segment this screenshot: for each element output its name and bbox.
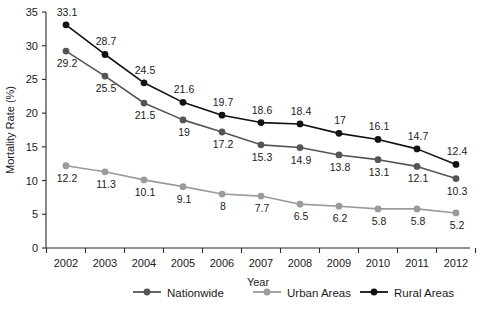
data-point bbox=[297, 121, 304, 128]
data-point bbox=[180, 116, 187, 123]
data-point bbox=[375, 156, 382, 163]
data-point bbox=[219, 112, 226, 119]
y-axis-ticks: 05101520253035 bbox=[26, 6, 46, 254]
y-tick-label: 10 bbox=[26, 175, 38, 187]
y-tick-label: 35 bbox=[26, 6, 38, 18]
y-tick-label: 20 bbox=[26, 107, 38, 119]
data-point-label: 14.9 bbox=[291, 154, 312, 166]
data-point bbox=[297, 144, 304, 151]
data-point-label: 17 bbox=[334, 114, 346, 126]
data-point-label: 5.8 bbox=[372, 215, 387, 227]
data-point bbox=[141, 176, 148, 183]
y-tick-label: 15 bbox=[26, 141, 38, 153]
legend-label: Urban Areas bbox=[287, 287, 351, 299]
data-point-label: 18.6 bbox=[252, 104, 273, 116]
y-axis-group: 05101520253035 Mortality Rate (%) bbox=[4, 6, 46, 254]
x-axis-title: Year bbox=[247, 276, 270, 288]
data-point-label: 10.1 bbox=[135, 186, 156, 198]
data-point-label: 19.7 bbox=[213, 96, 234, 108]
x-tick-label: 2009 bbox=[327, 257, 351, 269]
data-point bbox=[336, 130, 343, 137]
data-point bbox=[180, 99, 187, 106]
data-point-label: 6.2 bbox=[333, 212, 348, 224]
data-point-label: 21.5 bbox=[135, 109, 156, 121]
y-tick-label: 0 bbox=[32, 242, 38, 254]
data-point-label: 21.6 bbox=[174, 83, 195, 95]
data-point bbox=[219, 191, 226, 198]
x-tick-label: 2012 bbox=[444, 257, 468, 269]
data-point bbox=[453, 210, 460, 217]
data-point-label: 10.3 bbox=[447, 185, 468, 197]
x-axis-group: 2002200320042005200620072008200920102011… bbox=[46, 248, 476, 288]
data-point bbox=[414, 205, 421, 212]
data-point-label: 12.4 bbox=[447, 145, 468, 157]
data-point bbox=[336, 203, 343, 210]
data-point-label: 15.3 bbox=[252, 151, 273, 163]
y-tick-label: 25 bbox=[26, 73, 38, 85]
x-tick-label: 2006 bbox=[210, 257, 234, 269]
data-point-label: 7.7 bbox=[255, 202, 270, 214]
data-point-label: 14.7 bbox=[408, 130, 429, 142]
data-point bbox=[375, 136, 382, 143]
data-point-label: 33.1 bbox=[57, 6, 78, 18]
legend-label: Rural Areas bbox=[394, 287, 454, 299]
data-point-label: 9.1 bbox=[177, 193, 192, 205]
data-point-label: 5.2 bbox=[450, 219, 465, 231]
data-point-label: 28.7 bbox=[96, 35, 117, 47]
data-point-label: 16.1 bbox=[369, 120, 390, 132]
data-point-label: 13.8 bbox=[330, 161, 351, 173]
data-point-label: 25.5 bbox=[96, 82, 117, 94]
x-tick-label: 2007 bbox=[249, 257, 273, 269]
data-point bbox=[141, 79, 148, 86]
data-point bbox=[414, 163, 421, 170]
data-point-label: 5.8 bbox=[411, 215, 426, 227]
chart-legend: NationwideUrban AreasRural Areas bbox=[133, 287, 454, 299]
x-tick-label: 2008 bbox=[288, 257, 312, 269]
legend-marker bbox=[371, 289, 378, 296]
data-point-label: 8 bbox=[220, 200, 226, 212]
data-point-label: 12.1 bbox=[408, 172, 429, 184]
data-point-label: 24.5 bbox=[135, 64, 156, 76]
data-point-label: 13.1 bbox=[369, 166, 390, 178]
data-point bbox=[375, 205, 382, 212]
x-tick-label: 2003 bbox=[93, 257, 117, 269]
chart-container: 05101520253035 Mortality Rate (%) 200220… bbox=[0, 0, 487, 310]
data-point bbox=[102, 168, 109, 175]
mortality-rate-line-chart: 05101520253035 Mortality Rate (%) 200220… bbox=[0, 0, 487, 310]
y-tick-label: 30 bbox=[26, 40, 38, 52]
legend-item-urban-areas: Urban Areas bbox=[253, 287, 351, 299]
x-tick-label: 2004 bbox=[132, 257, 156, 269]
x-tick-label: 2005 bbox=[171, 257, 195, 269]
legend-label: Nationwide bbox=[167, 287, 224, 299]
data-point bbox=[453, 175, 460, 182]
data-point-label: 29.2 bbox=[57, 57, 78, 69]
data-point-label: 18.4 bbox=[291, 105, 312, 117]
data-point-label: 19 bbox=[178, 126, 190, 138]
legend-item-nationwide: Nationwide bbox=[133, 287, 224, 299]
data-point-label: 17.2 bbox=[213, 138, 234, 150]
data-point bbox=[219, 129, 226, 136]
data-point-label: 6.5 bbox=[294, 210, 309, 222]
x-axis-ticks: 2002200320042005200620072008200920102011… bbox=[47, 248, 476, 269]
data-point-label: 12.2 bbox=[57, 172, 78, 184]
data-point bbox=[258, 193, 265, 200]
legend-marker bbox=[144, 289, 151, 296]
data-point bbox=[63, 162, 70, 169]
data-point bbox=[102, 51, 109, 58]
data-point bbox=[180, 183, 187, 190]
data-point bbox=[63, 48, 70, 55]
x-tick-label: 2011 bbox=[405, 257, 429, 269]
data-point bbox=[336, 152, 343, 159]
data-point bbox=[102, 73, 109, 80]
x-tick-label: 2010 bbox=[366, 257, 390, 269]
data-point bbox=[258, 119, 265, 126]
series-layer bbox=[63, 21, 460, 216]
data-point bbox=[453, 161, 460, 168]
data-point bbox=[297, 201, 304, 208]
data-point bbox=[414, 145, 421, 152]
data-point bbox=[141, 100, 148, 107]
data-point bbox=[63, 21, 70, 28]
data-point-label: 11.3 bbox=[96, 178, 116, 190]
legend-marker bbox=[264, 289, 271, 296]
legend-item-rural-areas: Rural Areas bbox=[360, 287, 454, 299]
